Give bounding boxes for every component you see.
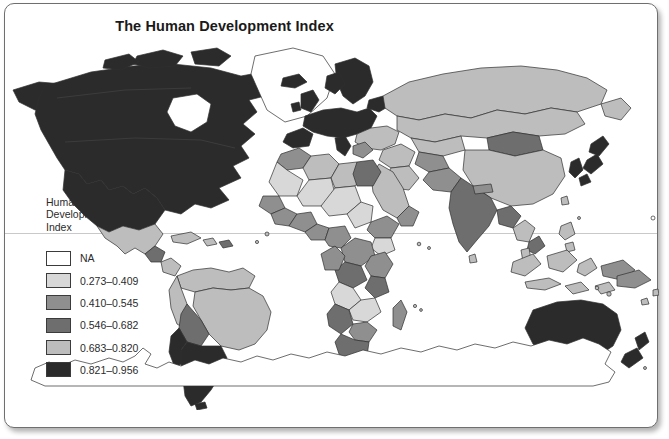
legend-item-class-1: 0.273–0.409: [46, 270, 171, 292]
legend-title: Human Development Index: [46, 196, 171, 233]
legend-swatch: [46, 251, 71, 266]
legend-item-class-3: 0.546–0.682: [46, 314, 171, 336]
legend-swatch: [46, 340, 71, 355]
figure-page: The Human Development Index .ln{stroke:#…: [0, 0, 669, 439]
region-southeast-asia: [511, 220, 635, 294]
legend-label: 0.821–0.956: [80, 364, 138, 376]
legend-swatch: [46, 362, 71, 377]
legend-item-class-2: 0.410–0.545: [46, 292, 171, 314]
region-south-america: [169, 268, 271, 410]
figure-title-text: The Human Development Index: [115, 18, 334, 34]
legend-swatch: [46, 318, 71, 333]
legend-item-class-4: 0.683–0.820: [46, 336, 171, 358]
legend-title-line-3: Index: [46, 221, 171, 233]
legend-label: 0.273–0.409: [80, 275, 138, 287]
legend-item-class-5: 0.821–0.956: [46, 359, 171, 381]
legend-label: 0.683–0.820: [80, 342, 138, 354]
legend-swatch: [46, 295, 71, 310]
legend-label: 0.546–0.682: [80, 319, 138, 331]
legend-item-na: NA: [46, 247, 171, 269]
legend-label: NA: [80, 252, 95, 264]
legend-title-line-2: Development: [46, 208, 171, 220]
map-legend: Human Development Index NA 0.273–0.409 0…: [46, 196, 171, 381]
region-middle-east: [371, 144, 419, 226]
legend-title-line-1: Human: [46, 196, 171, 208]
figure-title: The Human Development Index: [0, 18, 669, 34]
legend-label: 0.410–0.545: [80, 297, 138, 309]
legend-swatch: [46, 273, 71, 288]
